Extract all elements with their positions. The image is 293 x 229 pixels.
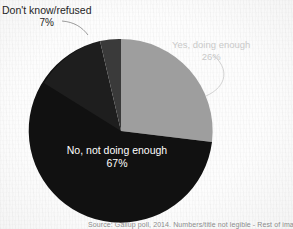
chart-page: Don't know/refused 7% Yes, doing enough … xyxy=(0,0,293,229)
slice-label-dontknow-text: Don't know/refused xyxy=(2,4,92,16)
slice-label-yes-text: Yes, doing enough xyxy=(172,39,250,50)
slice-label-dontknow-percent: 7% xyxy=(2,17,92,29)
slice-label-dontknow: Don't know/refused 7% xyxy=(2,4,92,29)
pie-chart xyxy=(0,0,293,229)
slice-label-yes: Yes, doing enough 26% xyxy=(172,39,250,62)
slice-label-no-text: No, not doing enough xyxy=(67,144,167,156)
slice-label-no: No, not doing enough 67% xyxy=(52,144,182,169)
source-note: Source: Gallup poll, 2014. Numbers/title… xyxy=(88,221,293,229)
slice-label-no-percent: 67% xyxy=(52,157,182,169)
slice-label-yes-percent: 26% xyxy=(172,51,250,62)
